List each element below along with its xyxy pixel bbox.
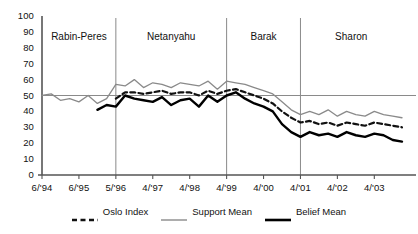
y-tick-label: 60 (12, 74, 34, 85)
chart-container: 1009080706050403020100 6/'946/'955/'964/… (0, 0, 418, 234)
y-tick-label: 70 (12, 58, 34, 69)
x-tick-label: 4/'99 (207, 182, 247, 193)
thick-black-line-icon (265, 209, 291, 215)
chart-legend: Oslo Index Support Mean Belief Mean (0, 206, 418, 217)
legend-item-support-mean: Support Mean (161, 206, 252, 217)
y-tick-label: 50 (12, 90, 34, 101)
x-tick-label: 5/'96 (96, 182, 136, 193)
y-tick-label: 0 (12, 169, 34, 180)
legend-item-oslo-index: Oslo Index (72, 206, 148, 217)
x-tick-label: 4/'98 (170, 182, 210, 193)
y-tick-label: 40 (12, 105, 34, 116)
x-tick-label: 6/'95 (59, 182, 99, 193)
y-tick-label: 10 (12, 153, 34, 164)
x-tick-label: 4/'01 (280, 182, 320, 193)
x-tick-label: 4/'03 (354, 182, 394, 193)
x-tick-label: 4/'97 (133, 182, 173, 193)
y-tick-label: 20 (12, 137, 34, 148)
legend-label-oslo-index: Oslo Index (103, 206, 148, 217)
y-tick-label: 30 (12, 121, 34, 132)
dashed-line-icon (72, 209, 98, 215)
series-line-oslo-index (116, 89, 402, 127)
thin-gray-line-icon (161, 209, 187, 215)
legend-label-belief-mean: Belief Mean (296, 206, 346, 217)
legend-label-support-mean: Support Mean (192, 206, 252, 217)
series-line-belief-mean (97, 92, 402, 141)
period-label-sharon: Sharon (291, 31, 411, 42)
y-tick-label: 100 (12, 10, 34, 21)
y-tick-label: 80 (12, 42, 34, 53)
legend-item-belief-mean: Belief Mean (265, 206, 346, 217)
x-tick-label: 4/'02 (317, 182, 357, 193)
x-tick-label: 4/'00 (244, 182, 284, 193)
x-tick-label: 6/'94 (22, 182, 62, 193)
